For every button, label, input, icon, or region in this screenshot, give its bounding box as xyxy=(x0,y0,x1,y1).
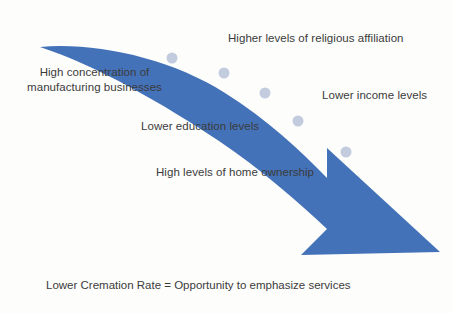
diagram-canvas: Higher levels of religious affiliation H… xyxy=(0,0,453,313)
diagram-caption: Lower Cremation Rate = Opportunity to em… xyxy=(46,278,351,293)
milestone-dot xyxy=(260,88,271,99)
milestone-dot xyxy=(293,116,304,127)
label-manufacturing-concentration: High concentration of manufacturing busi… xyxy=(22,65,167,94)
milestone-dot xyxy=(219,68,230,79)
label-religious-affiliation: Higher levels of religious affiliation xyxy=(228,31,404,46)
label-lower-income: Lower income levels xyxy=(322,88,427,103)
label-home-ownership: High levels of home ownership xyxy=(156,165,314,180)
milestone-dot xyxy=(167,53,178,64)
milestone-dot xyxy=(341,147,352,158)
label-lower-education: Lower education levels xyxy=(141,119,259,134)
downward-trend-arrow xyxy=(0,0,453,313)
